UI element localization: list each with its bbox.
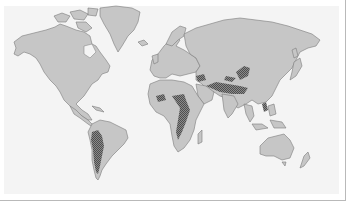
- greenland: [100, 6, 140, 52]
- philippines-highlight: [262, 102, 268, 112]
- map-frame: [0, 0, 346, 201]
- africa: [148, 80, 204, 152]
- new-zealand: [300, 152, 310, 168]
- australia: [260, 134, 294, 160]
- world-map: [0, 0, 345, 200]
- caribbean: [92, 106, 104, 112]
- iceland: [138, 40, 148, 46]
- madagascar: [198, 130, 202, 144]
- north-america: [14, 24, 110, 120]
- tasmania: [282, 162, 286, 166]
